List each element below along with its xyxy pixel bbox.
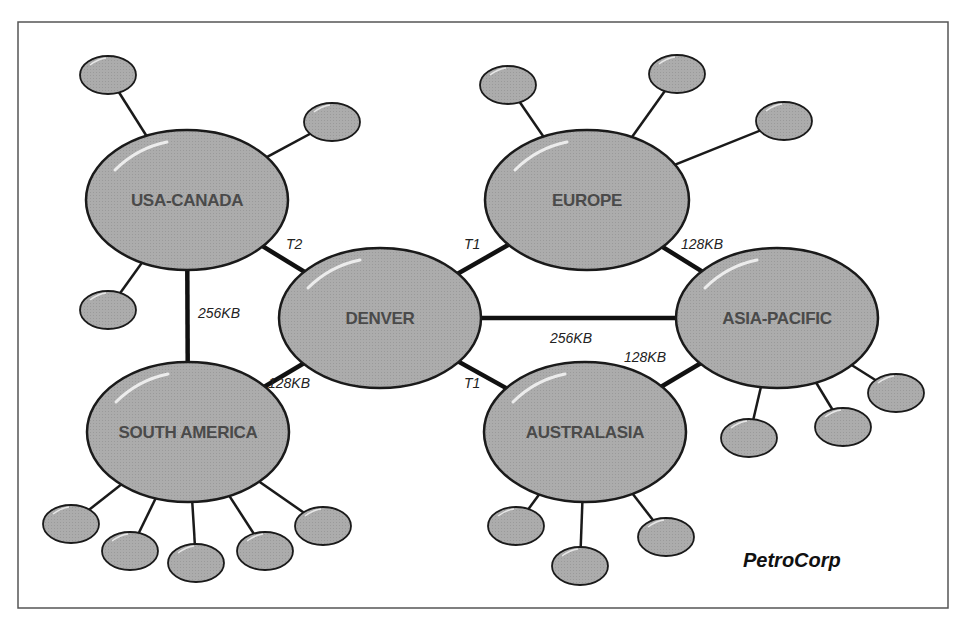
satellite-node xyxy=(295,507,351,545)
hub-label: USA-CANADA xyxy=(131,191,243,210)
satellite-node xyxy=(649,55,705,93)
satellite-node xyxy=(756,102,812,140)
satellite-node xyxy=(488,507,544,545)
satellite-node xyxy=(102,532,158,570)
hub-usa-canada: USA-CANADA xyxy=(86,130,288,270)
hub-label: ASIA-PACIFIC xyxy=(722,309,831,328)
satellite-node xyxy=(80,291,136,329)
link-label: 256KB xyxy=(197,305,240,321)
hub-asia-pacific: ASIA-PACIFIC xyxy=(676,248,878,388)
link-label: 128KB xyxy=(681,236,723,252)
satellite-node xyxy=(237,532,293,570)
link-label: 256KB xyxy=(549,330,592,346)
satellite-node xyxy=(43,505,99,543)
satellite-node xyxy=(815,408,871,446)
satellite-node xyxy=(868,374,924,412)
hub-label: SOUTH AMERICA xyxy=(118,423,257,442)
link-label: T2 xyxy=(286,236,303,252)
hub-label: DENVER xyxy=(345,309,414,328)
satellite-node xyxy=(80,56,136,94)
hub-europe: EUROPE xyxy=(485,130,689,270)
link-label: T1 xyxy=(464,236,480,252)
hub-denver: DENVER xyxy=(279,248,481,388)
satellite-node xyxy=(480,66,536,104)
hub-australasia: AUSTRALASIA xyxy=(484,362,686,502)
brand-label: PetroCorp xyxy=(743,549,841,571)
link-label: 128KB xyxy=(624,349,666,365)
hub-label: AUSTRALASIA xyxy=(526,423,645,442)
hub-label: EUROPE xyxy=(552,191,622,210)
link-label: T1 xyxy=(464,375,480,391)
network-diagram: USA-CANADADENVEREUROPEASIA-PACIFICSOUTH … xyxy=(0,0,967,632)
satellite-node xyxy=(168,544,224,582)
satellite-node xyxy=(638,518,694,556)
link-label: 128KB xyxy=(268,375,310,391)
hub-south-america: SOUTH AMERICA xyxy=(87,362,289,502)
satellite-node xyxy=(552,547,608,585)
satellite-node xyxy=(304,103,360,141)
satellite-node xyxy=(721,419,777,457)
